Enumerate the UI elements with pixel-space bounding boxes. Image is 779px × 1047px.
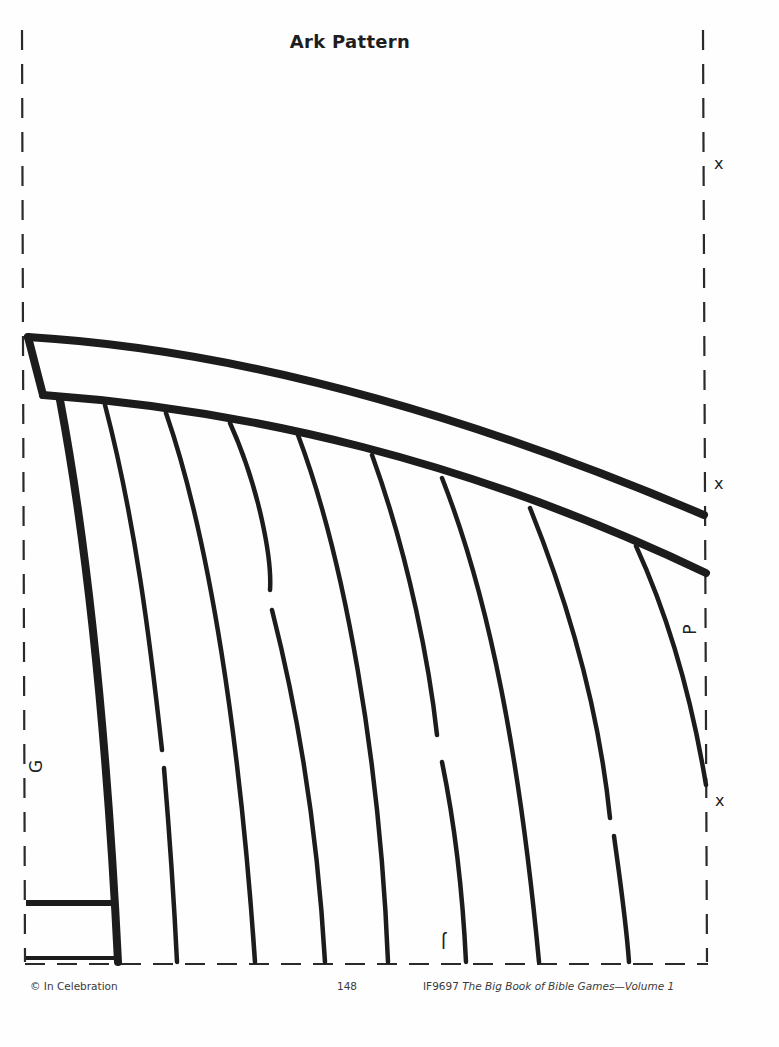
footer-page-number: 148 xyxy=(337,980,357,992)
plank-7 xyxy=(530,508,610,818)
footer-book-info: IF9697 The Big Book of Bible Games—Volum… xyxy=(423,980,674,992)
piece-label-j: J xyxy=(441,933,446,950)
hull-top-edge xyxy=(43,395,706,573)
plank-1b xyxy=(164,768,177,962)
hull-planks xyxy=(105,405,706,962)
footer-copyright: © In Celebration xyxy=(30,980,118,992)
footer-book-code: IF9697 xyxy=(423,980,459,992)
plank-5 xyxy=(372,455,437,735)
piece-label-g: G xyxy=(28,760,45,773)
plank-2 xyxy=(166,413,255,962)
plank-4 xyxy=(298,435,388,962)
cut-mark-x-top: x xyxy=(714,156,723,172)
piece-label-p: P xyxy=(682,624,699,634)
plank-3 xyxy=(230,423,270,590)
pattern-page: Ark Pattern xyxy=(0,0,779,1047)
plank-7b xyxy=(614,836,629,962)
right-cut-line xyxy=(703,30,707,962)
plank-1 xyxy=(105,405,162,750)
plank-8 xyxy=(636,546,706,785)
left-cut-line xyxy=(22,30,25,962)
cut-mark-x-bottom: x xyxy=(715,793,724,809)
footer-book-title: The Big Book of Bible Games—Volume 1 xyxy=(462,980,674,992)
roof-top-edge xyxy=(28,337,704,515)
ark-pattern-drawing xyxy=(0,0,779,1047)
cut-mark-x-middle: x xyxy=(714,476,723,492)
plank-6 xyxy=(442,478,539,962)
roof-left-end xyxy=(28,337,43,395)
plank-3b xyxy=(272,610,325,962)
hull-bow-line xyxy=(60,400,118,962)
